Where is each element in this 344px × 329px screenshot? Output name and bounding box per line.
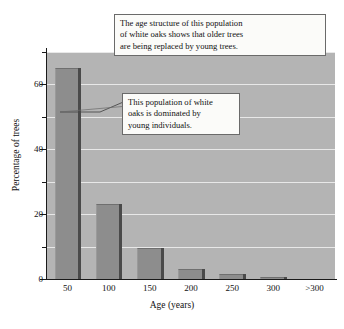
bar-100 [96, 204, 122, 279]
bar-slot [170, 52, 211, 279]
bars-layer [47, 52, 335, 279]
bar-slot [212, 52, 253, 279]
bar-shadow [119, 204, 122, 279]
x-tick-label-150: 150 [129, 283, 170, 293]
y-tick-minor [42, 117, 47, 118]
callout-top-line2: of white oaks shows that older trees [120, 29, 321, 40]
y-tick-minor [42, 182, 47, 183]
callout-top-line1: The age structure of this population [120, 18, 321, 29]
bar-shadow [202, 269, 205, 279]
callout-bottom-line3: young individuals. [128, 120, 235, 131]
x-tick-label-250: 250 [212, 283, 253, 293]
y-tick-label: 60 [34, 80, 43, 89]
x-axis-line [40, 279, 337, 280]
callout-top: The age structure of this population of … [114, 14, 326, 56]
x-axis-title: Age (years) [0, 300, 344, 310]
bar-slot [129, 52, 170, 279]
callout-bottom-line1: This population of white [128, 97, 235, 108]
y-axis-title: Percentage of trees [11, 95, 21, 215]
y-tick-label: 0 [39, 275, 44, 284]
y-tick-minor [42, 247, 47, 248]
callout-leader-line [60, 96, 128, 122]
bar-chart-figure: 0204060 50100150200250300>300 Age (years… [0, 0, 344, 329]
x-tick-label-100: 100 [88, 283, 129, 293]
callout-bottom-line2: oaks is dominated by [128, 108, 235, 119]
x-tick-label-300: 300 [253, 283, 294, 293]
callout-top-line3: are being replaced by young trees. [120, 41, 321, 52]
bar-slot [253, 52, 294, 279]
bar-slot [294, 52, 335, 279]
bar-shadow [161, 248, 164, 279]
x-tick-label-200: 200 [170, 283, 211, 293]
y-axis-line [46, 48, 47, 280]
y-tick-minor [42, 52, 47, 53]
y-tick-label: 40 [34, 145, 43, 154]
callout-bottom: This population of white oaks is dominat… [122, 93, 240, 135]
x-tick-label-gt300: >300 [294, 283, 335, 293]
bar-150 [137, 248, 163, 279]
bar-slot [88, 52, 129, 279]
x-tick-label-50: 50 [47, 283, 88, 293]
y-tick-label: 20 [34, 210, 43, 219]
plot-area [47, 52, 335, 279]
bar-slot [47, 52, 88, 279]
bar-200 [178, 269, 204, 279]
